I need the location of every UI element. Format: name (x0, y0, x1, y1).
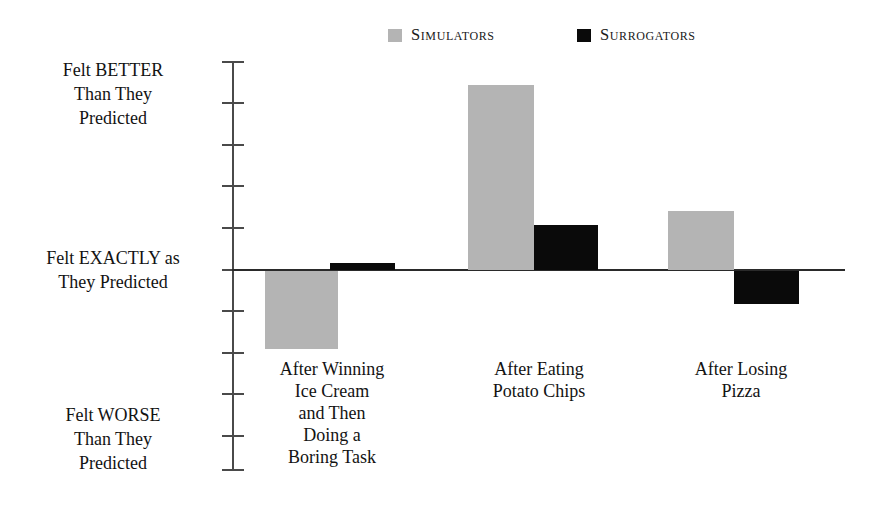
category-label-2-line-2: Pizza (646, 380, 836, 402)
bar-sur-0 (330, 263, 395, 270)
bar-sim-1 (468, 85, 534, 270)
category-label-0-line-4: Doing a (237, 424, 427, 446)
category-label-2: After LosingPizza (646, 358, 836, 402)
category-label-0-line-1: After Winning (237, 358, 427, 380)
bar-sur-1 (534, 225, 598, 270)
bar-sur-2 (734, 271, 799, 304)
category-label-1-line-2: Potato Chips (444, 380, 634, 402)
bar-chart-figure: Simulators Surrogators Felt BETTER Than … (0, 0, 876, 511)
bar-sim-0 (265, 271, 338, 349)
category-label-1: After EatingPotato Chips (444, 358, 634, 402)
category-label-0: After WinningIce Creamand ThenDoing aBor… (237, 358, 427, 468)
category-label-2-line-1: After Losing (646, 358, 836, 380)
bar-sim-2 (668, 211, 734, 270)
category-label-0-line-5: Boring Task (237, 446, 427, 468)
category-label-1-line-1: After Eating (444, 358, 634, 380)
category-label-0-line-2: Ice Cream (237, 380, 427, 402)
category-label-0-line-3: and Then (237, 402, 427, 424)
plot-area (0, 0, 876, 511)
